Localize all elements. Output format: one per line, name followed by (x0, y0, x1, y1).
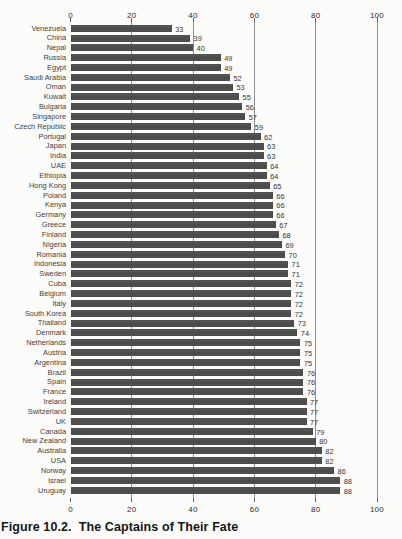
bar-row: South Korea72 (0, 309, 402, 319)
bar-row: Japan63 (0, 141, 402, 151)
bar-row: Thailand73 (0, 318, 402, 328)
country-label: Israel (0, 476, 66, 486)
bar (71, 379, 304, 386)
bar-row: UK77 (0, 417, 402, 427)
country-label: New Zealand (0, 436, 66, 446)
bar-row: Spain76 (0, 377, 402, 387)
bar-row: Belgium72 (0, 289, 402, 299)
bar (71, 54, 221, 61)
country-label: Singapore (0, 112, 66, 122)
x-axis-tick-mark (193, 498, 194, 502)
bar (71, 231, 279, 238)
country-label: Cuba (0, 279, 66, 289)
country-label: Finland (0, 230, 66, 240)
figure-caption: Figure 10.2.The Captains of Their Fate (1, 520, 401, 534)
bar-row: Egypt49 (0, 63, 402, 73)
bar (71, 467, 335, 474)
bar (71, 428, 313, 435)
value-label: 88 (344, 487, 352, 497)
country-label: Denmark (0, 328, 66, 338)
bar-row: Saudi Arabia52 (0, 73, 402, 83)
bar-row: Sweden71 (0, 269, 402, 279)
bar-row: Poland66 (0, 191, 402, 201)
bar (71, 103, 243, 110)
bar-row: China39 (0, 33, 402, 43)
country-label: India (0, 151, 66, 161)
country-label: Argentina (0, 358, 66, 368)
bar-row: Netherlands75 (0, 338, 402, 348)
bar (71, 162, 267, 169)
bar (71, 143, 264, 150)
country-label: Kenya (0, 200, 66, 210)
country-label: Indonesia (0, 259, 66, 269)
figure-caption-title: The Captains of Their Fate (79, 520, 239, 534)
x-axis-tick-mark (70, 18, 71, 22)
bar-row: Nigeria69 (0, 240, 402, 250)
bar (71, 261, 289, 268)
x-axis-tick-mark (315, 498, 316, 502)
bar (71, 93, 240, 100)
country-label: UAE (0, 161, 66, 171)
country-label: Hong Kong (0, 181, 66, 191)
bar-row: Norway86 (0, 466, 402, 476)
bar-row: Argentina75 (0, 358, 402, 368)
bar-row: Ireland77 (0, 397, 402, 407)
bar (71, 221, 276, 228)
bar (71, 320, 295, 327)
bar (71, 35, 191, 42)
bar-row: Uruguay88 (0, 486, 402, 496)
country-label: Oman (0, 82, 66, 92)
bar-row: Czech Republic59 (0, 122, 402, 132)
country-label: Germany (0, 210, 66, 220)
bar (71, 310, 292, 317)
bar (71, 172, 267, 179)
bar (71, 388, 304, 395)
country-label: Venezuela (0, 24, 66, 34)
bar (71, 300, 292, 307)
bar (71, 290, 292, 297)
country-label: Australia (0, 446, 66, 456)
country-label: Sweden (0, 269, 66, 279)
bar (71, 74, 230, 81)
x-axis-tick-label: 100 (370, 505, 384, 514)
country-label: Japan (0, 141, 66, 151)
bar (71, 457, 322, 464)
country-label: Saudi Arabia (0, 73, 66, 83)
bar-row: Ethiopia64 (0, 171, 402, 181)
bar (71, 270, 289, 277)
bar-row: Venezuela33 (0, 24, 402, 34)
country-label: Kuwait (0, 92, 66, 102)
x-axis-tick-label: 60 (250, 505, 260, 514)
bar (71, 447, 322, 454)
bar (71, 251, 286, 258)
bar-row: Nepal40 (0, 43, 402, 53)
bar-row: Australia82 (0, 446, 402, 456)
x-axis-tick-label: 0 (68, 505, 73, 514)
bar-row: Romania70 (0, 250, 402, 260)
country-label: Belgium (0, 289, 66, 299)
bar-row: Denmark74 (0, 328, 402, 338)
country-label: Poland (0, 191, 66, 201)
bar-row: USA82 (0, 456, 402, 466)
country-label: Nepal (0, 43, 66, 53)
bar-row: Austria75 (0, 348, 402, 358)
country-label: Norway (0, 466, 66, 476)
country-label: Russia (0, 53, 66, 63)
bar-row: Switzerland77 (0, 407, 402, 417)
bar (71, 44, 194, 51)
bar (71, 477, 341, 484)
x-axis-tick-label: 40 (188, 505, 198, 514)
x-axis-tick-label: 20 (127, 505, 137, 514)
bar-row: Italy72 (0, 299, 402, 309)
country-label: Romania (0, 250, 66, 260)
bar (71, 369, 304, 376)
country-label: Greece (0, 220, 66, 230)
bar (71, 359, 301, 366)
bar (71, 192, 273, 199)
country-label: Ethiopia (0, 171, 66, 181)
bar-row: Germany66 (0, 210, 402, 220)
bar-row: Russia49 (0, 53, 402, 63)
bar-row: Singapore57 (0, 112, 402, 122)
country-label: Ireland (0, 397, 66, 407)
bar (71, 123, 252, 130)
